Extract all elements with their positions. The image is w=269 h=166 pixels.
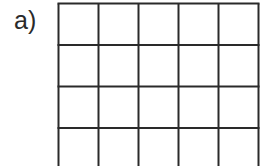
figure-label: a): [14, 8, 36, 33]
square-grid: [57, 2, 263, 166]
grid-lines: [57, 2, 263, 166]
